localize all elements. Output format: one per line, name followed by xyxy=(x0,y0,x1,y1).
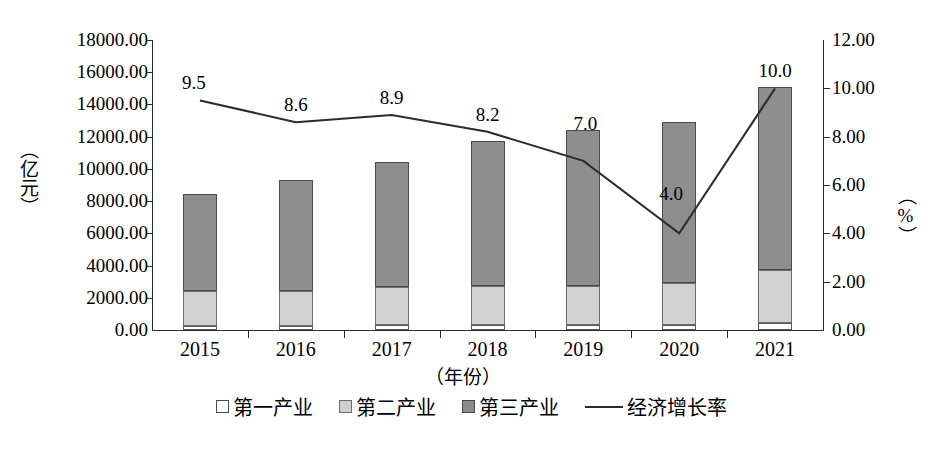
x-axis-tick xyxy=(440,331,441,338)
line-point-label-2018: 8.2 xyxy=(476,104,500,126)
y-axis-right-tick-label: 6.00 xyxy=(832,174,865,196)
legend-label: 第二产业 xyxy=(356,392,436,421)
y-axis-left-title: （亿元） xyxy=(18,140,37,216)
x-axis-tick xyxy=(344,331,345,338)
line-point-label-2021: 10.0 xyxy=(758,60,791,82)
y-axis-left-tick-label: 10000.00 xyxy=(77,158,148,180)
legend-label: 经济增长率 xyxy=(627,392,727,421)
y-axis-right-tick-label: 12.00 xyxy=(832,29,875,51)
legend-square-swatch-icon xyxy=(462,400,475,413)
legend-square-swatch-icon xyxy=(216,400,229,413)
y-axis-right-tick xyxy=(823,185,830,186)
y-axis-left-tick-label: 16000.00 xyxy=(77,61,148,83)
y-axis-left-tick-label: 0.00 xyxy=(115,319,148,341)
y-axis-right-tick-label: 10.00 xyxy=(832,77,875,99)
y-axis-right-tick-label: 4.00 xyxy=(832,222,865,244)
legend-item-1[interactable]: 第一产业 xyxy=(216,392,313,421)
x-axis-tick xyxy=(727,331,728,338)
y-axis-left-tick-label: 14000.00 xyxy=(77,93,148,115)
x-axis-label-2018: 2018 xyxy=(468,338,508,361)
x-axis-label-2016: 2016 xyxy=(276,338,316,361)
x-axis-label-2019: 2019 xyxy=(563,338,603,361)
y-axis-left-tick-label: 4000.00 xyxy=(86,255,148,277)
line-point-label-2017: 8.9 xyxy=(380,87,404,109)
x-axis-label-2017: 2017 xyxy=(372,338,412,361)
plot-area: 9.58.68.98.27.04.010.0 xyxy=(152,40,823,330)
legend-label: 第一产业 xyxy=(233,392,313,421)
y-axis-right-tick xyxy=(823,282,830,283)
y-axis-left-tick-label: 6000.00 xyxy=(86,222,148,244)
y-axis-right-tick-label: 8.00 xyxy=(832,126,865,148)
y-axis-right-tick xyxy=(823,88,830,89)
y-axis-right-tick xyxy=(823,233,830,234)
legend-item-4[interactable]: 经济增长率 xyxy=(585,392,727,421)
y-axis-left-tick-label: 18000.00 xyxy=(77,29,148,51)
line-point-label-2016: 8.6 xyxy=(284,94,308,116)
y-axis-left-tick-label: 8000.00 xyxy=(86,190,148,212)
legend-line-swatch-icon xyxy=(585,406,623,408)
line-point-label-2015: 9.5 xyxy=(182,72,206,94)
legend-label: 第三产业 xyxy=(479,392,559,421)
x-axis-tick xyxy=(631,331,632,338)
line-point-label-2019: 7.0 xyxy=(573,113,597,135)
line-point-label-2020: 4.0 xyxy=(659,183,683,205)
growth-rate-line xyxy=(152,40,823,330)
x-axis-tick xyxy=(535,331,536,338)
x-axis-label-2020: 2020 xyxy=(659,338,699,361)
y-axis-left-tick-label: 12000.00 xyxy=(77,126,148,148)
x-axis-title-text: （年份） xyxy=(425,362,501,389)
y-axis-left-tick-label: 2000.00 xyxy=(86,287,148,309)
y-axis-right-tick xyxy=(823,137,830,138)
x-axis-label-2015: 2015 xyxy=(180,338,220,361)
x-axis-label-2021: 2021 xyxy=(755,338,795,361)
y-axis-right-tick-label: 0.00 xyxy=(832,319,865,341)
y-axis-right-tick-label: 2.00 xyxy=(832,271,865,293)
legend-item-2[interactable]: 第二产业 xyxy=(339,392,436,421)
legend-square-swatch-icon xyxy=(339,400,352,413)
y-axis-right-title: （%） xyxy=(896,186,915,245)
x-axis-spine xyxy=(152,330,824,331)
chart-legend: 第一产业第二产业第三产业经济增长率 xyxy=(0,392,942,421)
legend-item-3[interactable]: 第三产业 xyxy=(462,392,559,421)
x-axis-tick xyxy=(248,331,249,338)
stacked-bar-line-chart: 0.002000.004000.006000.008000.0010000.00… xyxy=(0,0,942,449)
x-axis-title: （年份） xyxy=(0,362,942,389)
